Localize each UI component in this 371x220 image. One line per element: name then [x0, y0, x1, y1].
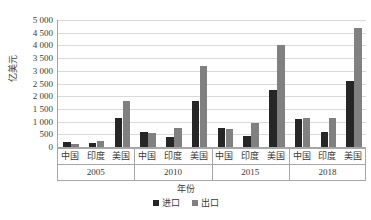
category-label: 中国 — [134, 148, 160, 164]
legend-item[interactable]: 进口 — [153, 196, 180, 209]
y-axis-tick-label: 5 000 — [33, 15, 53, 25]
y-axis-tick-label: 0 — [49, 142, 54, 152]
x-axis-title: 年份 — [0, 182, 371, 195]
bar-import — [218, 128, 226, 147]
group-separator — [212, 148, 213, 181]
bar-chart: 亿美元 5 0004 5004 0003 5003 0002 5002 0001… — [0, 0, 371, 220]
bar-export — [200, 66, 208, 147]
plot-area — [57, 20, 366, 147]
bar-series-container — [58, 20, 366, 147]
category-label: 美国 — [109, 148, 135, 164]
bar-export — [277, 45, 285, 147]
label-table-right-border — [365, 148, 366, 181]
bar-export — [123, 101, 131, 147]
category-label: 印度 — [315, 148, 341, 164]
group-label: 2005 — [57, 164, 134, 180]
bar-import — [269, 90, 277, 147]
category-label: 印度 — [160, 148, 186, 164]
chart-legend: 进口出口 — [0, 196, 371, 209]
y-axis-tick-label: 1 000 — [33, 117, 53, 127]
bar-import — [295, 119, 303, 147]
bar-export — [148, 133, 156, 147]
group-label: 2015 — [212, 164, 289, 180]
bar-import — [166, 137, 174, 147]
group-label: 2018 — [289, 164, 366, 180]
bar-export — [226, 129, 234, 147]
bar-import — [192, 101, 200, 147]
y-axis-tick-label: 3 000 — [33, 66, 53, 76]
y-axis-tick-label: 2 000 — [33, 91, 53, 101]
category-label: 美国 — [340, 148, 366, 164]
y-axis-tick-label: 4 000 — [33, 40, 53, 50]
bar-export — [251, 123, 259, 147]
bar-export — [329, 118, 337, 147]
bar-export — [354, 28, 362, 147]
bar-import — [321, 132, 329, 147]
y-axis-tick-label: 3 500 — [33, 53, 53, 63]
category-label: 中国 — [289, 148, 315, 164]
category-label: 美国 — [263, 148, 289, 164]
legend-label: 进口 — [162, 196, 180, 209]
group-separator — [134, 148, 135, 181]
label-table-left-border — [57, 148, 58, 181]
y-axis-tick-label: 2 500 — [33, 79, 53, 89]
bar-import — [243, 136, 251, 147]
category-label: 美国 — [186, 148, 212, 164]
group-separator — [289, 148, 290, 181]
y-axis-tick-label: 4 500 — [33, 28, 53, 38]
bar-import — [115, 118, 123, 147]
bar-import — [346, 81, 354, 147]
legend-item[interactable]: 出口 — [192, 196, 219, 209]
category-label: 印度 — [83, 148, 109, 164]
y-axis-tick-label: 1 500 — [33, 104, 53, 114]
category-label: 印度 — [237, 148, 263, 164]
legend-label: 出口 — [201, 196, 219, 209]
legend-swatch-icon — [192, 200, 198, 206]
bar-export — [303, 118, 311, 147]
y-axis-tick-label: 500 — [40, 129, 54, 139]
group-label: 2010 — [134, 164, 211, 180]
bar-import — [140, 132, 148, 147]
category-label: 中国 — [212, 148, 238, 164]
category-label: 中国 — [57, 148, 83, 164]
bar-export — [174, 128, 182, 147]
legend-swatch-icon — [153, 200, 159, 206]
